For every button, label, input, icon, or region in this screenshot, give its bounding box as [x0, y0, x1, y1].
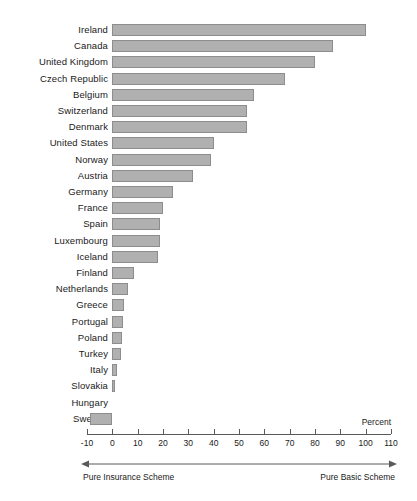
- x-axis-tick: [138, 429, 139, 434]
- x-axis-tick: [87, 429, 88, 434]
- bar: [112, 202, 163, 214]
- bar: [112, 283, 127, 295]
- bar: [90, 413, 112, 425]
- x-axis-tick: [163, 429, 164, 434]
- x-axis-tick: [264, 429, 265, 434]
- bar: [112, 348, 121, 360]
- bar: [112, 40, 332, 52]
- bar: [112, 89, 254, 101]
- bar: [112, 73, 284, 85]
- bar: [112, 316, 123, 328]
- bar: [112, 56, 315, 68]
- bar: [112, 251, 158, 263]
- bar: [112, 137, 213, 149]
- bar: [112, 218, 160, 230]
- x-axis-tick: [315, 429, 316, 434]
- scheme-range-arrow: [80, 458, 398, 470]
- bar-chart: IrelandCanadaUnited KingdomCzech Republi…: [0, 0, 417, 501]
- x-axis-tick: [366, 429, 367, 434]
- bar: [112, 154, 211, 166]
- bar: [112, 299, 124, 311]
- x-axis-tick: [188, 429, 189, 434]
- x-axis-tick: [290, 429, 291, 434]
- bar: [112, 24, 365, 36]
- x-axis-tick: [391, 429, 392, 434]
- plot-area: IrelandCanadaUnited KingdomCzech Republi…: [0, 0, 417, 501]
- x-axis-line: [87, 434, 391, 435]
- bar: [112, 235, 160, 247]
- bar: [112, 380, 115, 392]
- pure-insurance-scheme-label: Pure Insurance Scheme: [83, 472, 174, 482]
- bar: [112, 170, 193, 182]
- x-axis-tick: [112, 429, 113, 434]
- chart-row: Sweden: [0, 410, 417, 428]
- bar: [112, 121, 246, 133]
- x-axis-tick: [214, 429, 215, 434]
- x-axis-tick-label: 110: [376, 438, 406, 448]
- axis-unit-label: Percent: [362, 417, 391, 427]
- bar: [112, 105, 246, 117]
- bar: [112, 186, 173, 198]
- x-axis-tick: [239, 429, 240, 434]
- x-axis-tick: [340, 429, 341, 434]
- bar: [112, 267, 134, 279]
- bar: [112, 332, 122, 344]
- bar: [112, 364, 117, 376]
- pure-basic-scheme-label: Pure Basic Scheme: [320, 472, 395, 482]
